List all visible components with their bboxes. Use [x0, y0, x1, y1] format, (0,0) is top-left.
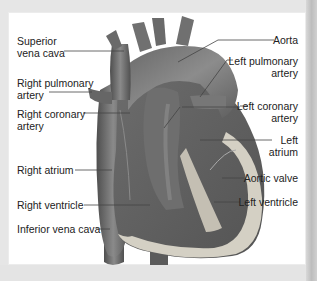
label-line: Superior [17, 35, 65, 47]
label-line: Right ventricle [17, 199, 84, 211]
label-inferior-vena-cava: Inferior vena cava [17, 223, 100, 235]
label-line: Right coronary [17, 108, 85, 120]
label-left-pulmonary-artery: Left pulmonary artery [229, 55, 298, 79]
label-left-coronary-artery: Left coronary artery [237, 100, 298, 124]
label-superior-vena-cava: Superior vena cava [17, 35, 65, 59]
label-left-ventricle: Left ventricle [238, 196, 298, 208]
label-line: Aorta [273, 34, 298, 46]
label-aorta: Aorta [273, 34, 298, 46]
label-left-atrium: Left atrium [269, 134, 298, 158]
label-line: Left pulmonary [229, 55, 298, 67]
label-line: Left coronary [237, 100, 298, 112]
label-line: atrium [269, 146, 298, 158]
label-right-coronary-artery: Right coronary artery [17, 108, 85, 132]
label-line: artery [237, 112, 298, 124]
label-line: vena cava [17, 47, 65, 59]
label-line: Aortic valve [244, 172, 298, 184]
label-line: Right atrium [17, 164, 74, 176]
label-line: Right pulmonary [17, 77, 93, 89]
label-line: artery [17, 89, 93, 101]
label-line: Left [269, 134, 298, 146]
label-line: artery [229, 67, 298, 79]
label-right-atrium: Right atrium [17, 164, 74, 176]
label-line: artery [17, 120, 85, 132]
label-right-pulmonary-artery: Right pulmonary artery [17, 77, 93, 101]
label-line: Left ventricle [238, 196, 298, 208]
label-line: Inferior vena cava [17, 223, 100, 235]
label-aortic-valve: Aortic valve [244, 172, 298, 184]
label-right-ventricle: Right ventricle [17, 199, 84, 211]
